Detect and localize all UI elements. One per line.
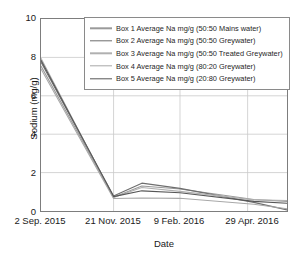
legend-item: Box 3 Average Na mg/g (50:50 Treated Gre…: [88, 47, 286, 60]
x-axis-title: Date: [40, 238, 288, 249]
legend-label: Box 2 Average Na mg/g (50:50 Greywater): [116, 36, 256, 45]
legend-label: Box 1 Average Na mg/g (50:50 Mains water…: [116, 24, 261, 33]
legend-line-swatch: [90, 74, 112, 84]
y-tick-label: 2: [6, 168, 36, 178]
legend-item: Box 2 Average Na mg/g (50:50 Greywater): [88, 35, 286, 48]
y-tick-label: 8: [6, 52, 36, 62]
legend-item: Box 4 Average Na mg/g (80:20 Greywater): [88, 60, 286, 73]
legend-label: Box 5 Average Na mg/g (20:80 Greywater): [116, 74, 256, 83]
legend-line-swatch: [90, 48, 112, 58]
x-tick-label: 29 Apr. 2016: [214, 215, 290, 226]
legend-item: Box 5 Average Na mg/g (20:80 Greywater): [88, 72, 286, 85]
chart-legend: Box 1 Average Na mg/g (50:50 Mains water…: [84, 17, 290, 90]
chart-figure: Sodium (mg/g) 10 8 6 4 2 0 2 Sep. 2015 2…: [0, 0, 300, 262]
legend-label: Box 4 Average Na mg/g (80:20 Greywater): [116, 62, 256, 71]
legend-item: Box 1 Average Na mg/g (50:50 Mains water…: [88, 22, 286, 35]
y-tick-label: 6: [6, 91, 36, 101]
y-tick-label: 4: [6, 129, 36, 139]
legend-line-swatch: [90, 61, 112, 71]
x-tick-label: 2 Sep. 2015: [2, 215, 78, 226]
legend-label: Box 3 Average Na mg/g (50:50 Treated Gre…: [116, 49, 283, 58]
legend-line-swatch: [90, 23, 112, 33]
legend-line-swatch: [90, 36, 112, 46]
x-tick-label: 9 Feb. 2016: [144, 215, 214, 226]
x-tick-label: 21 Nov. 2015: [75, 215, 151, 226]
y-tick-label: 10: [6, 13, 36, 23]
